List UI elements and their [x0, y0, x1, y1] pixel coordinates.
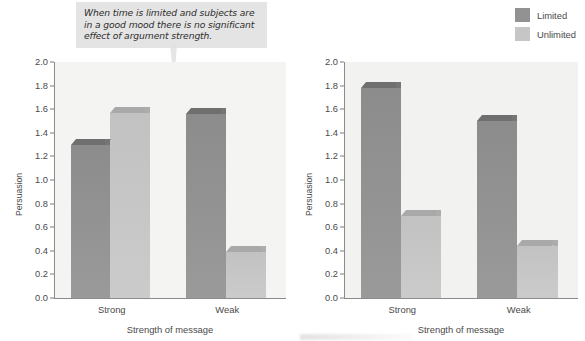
legend-swatch-icon	[515, 27, 530, 41]
y-axis-tick-label: 1.8	[35, 81, 48, 91]
bar-unlimited-weak	[226, 246, 266, 298]
annotation-callout-text: When time is limited and subjects are in…	[84, 7, 260, 42]
annotation-callout: When time is limited and subjects are in…	[76, 2, 267, 48]
y-axis-tick-label: 1.4	[325, 128, 338, 138]
x-axis-category-label: Strong	[388, 304, 416, 315]
bar-limited-weak	[186, 108, 226, 298]
bar-front-face	[71, 145, 111, 298]
chart-panel-right: Persuasion 0.00.20.40.60.81.01.21.41.61.…	[292, 56, 582, 341]
y-axis-tick-label: 1.2	[35, 151, 48, 161]
y-axis-ticks: 0.00.20.40.60.81.01.21.41.61.82.0	[20, 62, 54, 298]
y-axis-tick-label: 0.4	[35, 246, 48, 256]
bar-limited-strong	[361, 82, 401, 298]
bar-unlimited-strong	[110, 107, 150, 298]
y-axis-tick-label: 0.0	[325, 293, 338, 303]
bar-groups	[345, 62, 578, 298]
legend-item: Unlimited	[515, 27, 576, 41]
legend-swatch-icon	[515, 8, 530, 22]
y-axis-tick-label: 2.0	[35, 57, 48, 67]
y-axis-tick-label: 1.0	[325, 175, 338, 185]
y-axis-tick-label: 1.0	[35, 175, 48, 185]
plot-area	[54, 62, 286, 299]
legend-item-label: Unlimited	[537, 29, 576, 40]
bar-limited-weak	[477, 115, 517, 298]
bar-front-face	[110, 113, 150, 298]
bar-group	[171, 62, 287, 298]
bar-limited-strong	[71, 139, 111, 298]
page-artifact	[300, 334, 412, 340]
chart-legend: LimitedUnlimited	[515, 8, 576, 41]
y-axis-tick-label: 0.6	[325, 222, 338, 232]
bar-front-face	[401, 216, 441, 299]
bar-group	[55, 62, 171, 298]
y-axis-tick-label: 0.2	[35, 269, 48, 279]
y-axis-tick-label: 1.6	[35, 104, 48, 114]
x-axis-title: Strength of message	[54, 324, 286, 335]
legend-item-label: Limited	[537, 10, 567, 21]
chart-right-inner: Persuasion 0.00.20.40.60.81.01.21.41.61.…	[292, 56, 582, 341]
x-axis-category-labels: StrongWeak	[54, 304, 286, 318]
y-axis-tick-label: 1.4	[35, 128, 48, 138]
bar-front-face	[477, 121, 517, 298]
bar-group	[462, 62, 579, 298]
bar-unlimited-strong	[401, 210, 441, 299]
y-axis-tick-label: 0.2	[325, 269, 338, 279]
x-axis-category-label: Weak	[507, 304, 531, 315]
y-axis-tick-label: 1.8	[325, 81, 338, 91]
y-axis-tick-label: 1.2	[325, 151, 338, 161]
y-axis-tick-label: 2.0	[325, 57, 338, 67]
x-axis-category-label: Strong	[98, 304, 126, 315]
x-axis-category-label: Weak	[215, 304, 239, 315]
x-axis-category-labels: StrongWeak	[344, 304, 578, 318]
y-axis-tick-label: 0.6	[35, 222, 48, 232]
bar-group	[345, 62, 462, 298]
y-axis-tick-label: 0.0	[35, 293, 48, 303]
bar-front-face	[517, 246, 557, 298]
bar-front-face	[226, 252, 266, 298]
bar-front-face	[361, 88, 401, 298]
y-axis-tick-label: 0.4	[325, 246, 338, 256]
y-axis-tick-label: 0.8	[325, 199, 338, 209]
bar-groups	[55, 62, 286, 298]
bar-unlimited-weak	[517, 240, 557, 298]
y-axis-tick-label: 0.8	[35, 199, 48, 209]
plot-area	[344, 62, 578, 299]
chart-panel-left: Persuasion 0.00.20.40.60.81.01.21.41.61.…	[2, 56, 290, 341]
chart-left-inner: Persuasion 0.00.20.40.60.81.01.21.41.61.…	[2, 56, 290, 341]
y-axis-tick-label: 1.6	[325, 104, 338, 114]
legend-item: Limited	[515, 8, 576, 22]
y-axis-ticks: 0.00.20.40.60.81.01.21.41.61.82.0	[310, 62, 344, 298]
bar-front-face	[186, 114, 226, 298]
